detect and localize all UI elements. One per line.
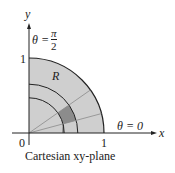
region-label: R	[52, 70, 59, 82]
x-axis-label: x	[159, 127, 164, 139]
theta-zero-label: θ = 0	[117, 120, 143, 132]
y-tick-label: 1	[20, 53, 26, 65]
x-arrow-icon	[151, 131, 157, 135]
y-axis-label: y	[25, 8, 30, 20]
origin-label: 0	[19, 137, 25, 149]
theta-pi-over-2-label: θ = π 2	[32, 28, 57, 52]
y-arrow-icon	[27, 23, 31, 29]
x-tick-label: 1	[101, 137, 107, 149]
caption: Cartesian xy-plane	[25, 150, 115, 162]
polar-region-diagram	[0, 0, 175, 173]
